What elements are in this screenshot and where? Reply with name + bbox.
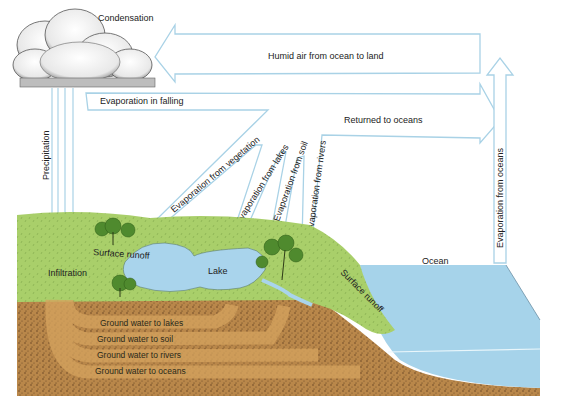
label-evap-oceans: Evaporation from oceans (495, 147, 505, 248)
hydrologic-cycle-diagram: Condensation Precipitation Humid air fro… (0, 0, 584, 408)
label-humid-air: Humid air from ocean to land (268, 51, 384, 61)
label-gw-rivers: Ground water to rivers (97, 350, 181, 360)
label-precipitation: Precipitation (41, 130, 51, 180)
label-gw-lakes: Ground water to lakes (100, 318, 183, 328)
label-evap-falling: Evaporation in falling (100, 96, 184, 106)
label-lake: Lake (208, 266, 228, 276)
label-returned-oceans: Returned to oceans (344, 115, 423, 125)
label-ocean: Ocean (422, 256, 449, 266)
label-gw-soil: Ground water to soil (97, 334, 173, 344)
label-infiltration: Infiltration (48, 268, 87, 278)
label-gw-oceans: Ground water to oceans (95, 366, 186, 376)
label-condensation: Condensation (98, 13, 154, 23)
